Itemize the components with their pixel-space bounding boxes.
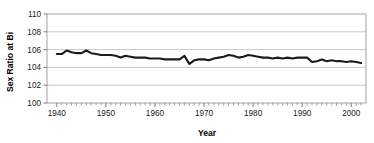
x-axis-title: Year <box>198 128 217 138</box>
x-tick-label-1990: 1990 <box>293 109 312 118</box>
x-tick-label-1960: 1960 <box>146 109 165 118</box>
y-tick-label-102: 102 <box>27 81 41 90</box>
y-axis-title: Sex Ratio at Bi <box>5 32 15 92</box>
chart-background <box>0 0 374 143</box>
chart-container: 100102104106108110 194019501960197019801… <box>0 0 374 143</box>
y-tick-label-110: 110 <box>28 10 41 19</box>
y-tick-label-100: 100 <box>27 99 41 108</box>
y-tick-label-106: 106 <box>27 46 41 55</box>
line-chart: 100102104106108110 194019501960197019801… <box>0 0 374 143</box>
x-tick-label-1950: 1950 <box>97 109 116 118</box>
x-tick-label-1980: 1980 <box>244 109 263 118</box>
x-tick-label-1970: 1970 <box>195 109 214 118</box>
y-tick-label-104: 104 <box>27 63 41 72</box>
x-tick-label-2000: 2000 <box>342 109 361 118</box>
x-tick-label-1940: 1940 <box>48 109 67 118</box>
y-tick-label-108: 108 <box>27 28 41 37</box>
